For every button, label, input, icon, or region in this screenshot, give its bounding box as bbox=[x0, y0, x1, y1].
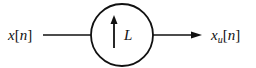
upsampler-block bbox=[91, 4, 153, 66]
block-label: L bbox=[123, 27, 132, 43]
arrowhead-icon bbox=[191, 32, 202, 39]
input-label: x[n] bbox=[7, 27, 32, 43]
upsampler-diagram: x[n] L xu[n] bbox=[0, 0, 256, 68]
up-arrow-icon bbox=[111, 15, 118, 48]
output-label: xu[n] bbox=[210, 27, 240, 45]
